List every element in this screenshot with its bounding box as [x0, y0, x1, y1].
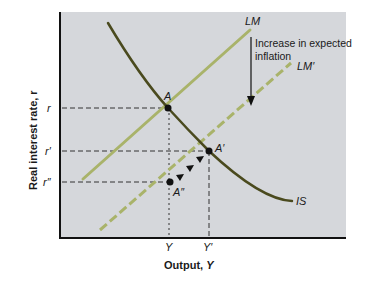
label-lm: LM [245, 15, 261, 27]
tick-y-prime: Y′ [203, 241, 213, 253]
tick-y: Y [165, 241, 173, 253]
label-a-double-prime: A″ [172, 186, 185, 198]
tick-r: r [47, 102, 52, 114]
label-is: IS [296, 195, 307, 207]
tick-r-prime: r′ [45, 145, 52, 157]
annotation-line-2: inflation [255, 50, 291, 62]
is-lm-chart: A A′ A″ LM LM′ IS Increase in expected i… [0, 0, 377, 285]
y-axis-title: Real interest rate, r [27, 90, 39, 190]
tick-r-double-prime: r″ [43, 176, 52, 188]
point-a-double-prime [167, 179, 174, 186]
label-a-prime: A′ [214, 142, 225, 154]
point-a-prime [206, 148, 213, 155]
label-a: A [163, 90, 171, 102]
point-a [165, 105, 172, 112]
x-axis-title: Output, Y [164, 259, 215, 271]
label-lm-prime: LM′ [297, 60, 315, 72]
annotation-line-1: Increase in expected [255, 37, 352, 49]
